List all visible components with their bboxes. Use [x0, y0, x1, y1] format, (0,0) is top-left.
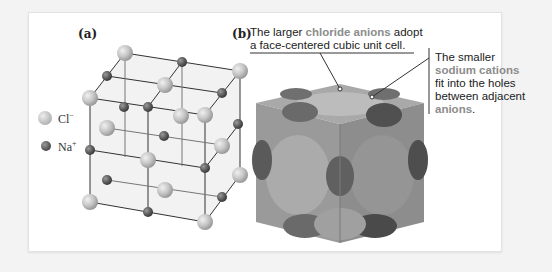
caption-top: The larger chloride anions adopt a face-… — [250, 26, 423, 52]
caption-right: The smaller sodium cations fit into the … — [435, 51, 525, 116]
unit-cell-cube — [252, 84, 428, 243]
